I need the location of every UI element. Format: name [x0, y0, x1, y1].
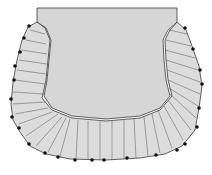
apron-illustration — [0, 0, 212, 175]
apron-body — [37, 8, 177, 119]
